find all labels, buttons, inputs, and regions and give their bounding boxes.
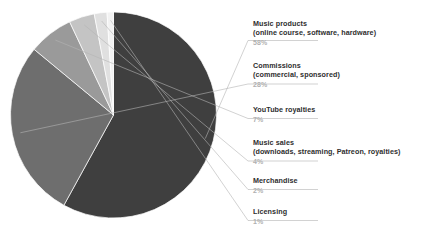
legend-label-merchandise: Merchandise [253, 177, 298, 186]
legend-item-licensing[interactable]: Licensing 1% [253, 208, 287, 227]
legend-sublabel-music-sales: (downloads, streaming, Patreon, royaltie… [253, 148, 401, 157]
legend-item-merchandise[interactable]: Merchandise 2% [253, 177, 298, 196]
legend-percent-youtube-royalties: 7% [253, 116, 315, 124]
legend-percent-licensing: 1% [253, 218, 287, 226]
pie-chart-figure: Music products (online course, software,… [0, 0, 421, 239]
pie-slice-group [11, 12, 217, 218]
legend-percent-commissions: 28% [253, 81, 340, 89]
legend-percent-music-sales: 4% [253, 158, 401, 166]
legend-percent-music-products: 58% [253, 39, 376, 47]
legend-item-youtube-royalties[interactable]: YouTube royalties 7% [253, 106, 315, 125]
legend-item-commissions[interactable]: Commissions (commercial, sponsored) 28% [253, 62, 340, 89]
legend-item-music-sales[interactable]: Music sales (downloads, streaming, Patre… [253, 139, 401, 166]
legend-label-licensing: Licensing [253, 208, 287, 217]
legend-sublabel-commissions: (commercial, sponsored) [253, 71, 340, 80]
legend-sublabel-music-products: (online course, software, hardware) [253, 29, 376, 38]
legend-percent-merchandise: 2% [253, 187, 298, 195]
legend-label-youtube-royalties: YouTube royalties [253, 106, 315, 115]
legend-item-music-products[interactable]: Music products (online course, software,… [253, 20, 376, 47]
